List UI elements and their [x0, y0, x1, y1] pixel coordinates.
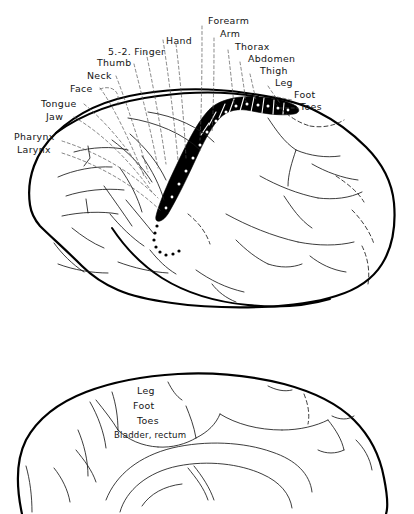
label-jaw: Jaw — [45, 111, 63, 122]
medial-brain-panel: Leg Foot Toes Bladder, rectum — [18, 373, 387, 514]
label-arm: Arm — [220, 28, 240, 39]
label-thumb: Thumb — [96, 57, 131, 68]
label-neck: Neck — [87, 70, 112, 81]
label-thorax: Thorax — [234, 41, 270, 52]
label-medial-foot: Foot — [133, 400, 155, 411]
label-medial-toes: Toes — [136, 415, 159, 426]
label-medial-bladder-rectum: Bladder, rectum — [114, 430, 186, 440]
label-hand: Hand — [166, 35, 192, 46]
label-face: Face — [70, 83, 93, 94]
label-toes: Toes — [299, 101, 322, 112]
label-tongue: Tongue — [40, 98, 77, 109]
lateral-brain-panel: Pharynx Larynx Tongue Jaw Face Neck Thum… — [14, 15, 395, 307]
label-pharynx: Pharynx — [14, 131, 55, 142]
label-foot: Foot — [294, 89, 316, 100]
label-medial-leg: Leg — [137, 385, 155, 396]
label-leg: Leg — [275, 77, 293, 88]
figure-root: Pharynx Larynx Tongue Jaw Face Neck Thum… — [0, 0, 414, 514]
brain-homunculus-figure: Pharynx Larynx Tongue Jaw Face Neck Thum… — [0, 0, 414, 514]
label-abdomen: Abdomen — [248, 53, 295, 64]
label-fingers: 5.-2. Finger — [108, 46, 165, 57]
label-forearm: Forearm — [208, 15, 249, 26]
label-larynx: Larynx — [17, 144, 51, 155]
label-thigh: Thigh — [259, 65, 288, 76]
